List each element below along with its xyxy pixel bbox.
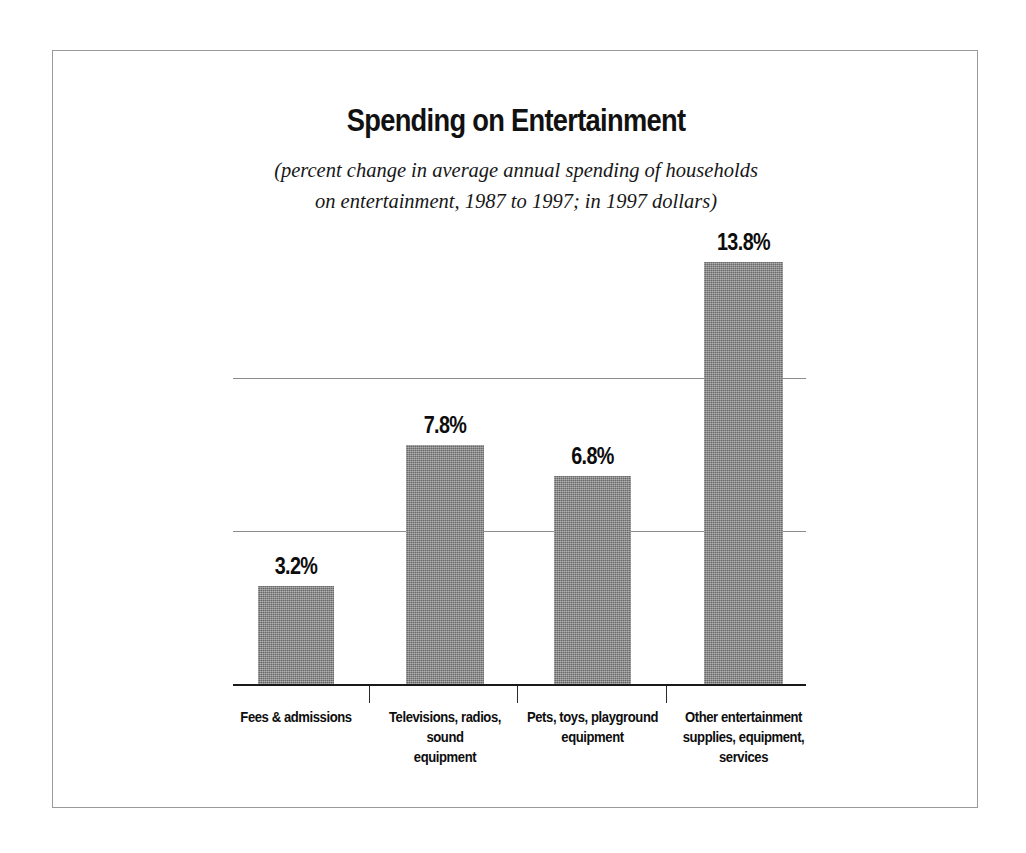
category-tick-3 [666,686,667,703]
category-tick-2 [517,686,518,703]
category-label-2: Televisions, radios, soundequipment [372,707,518,767]
bar-4[interactable] [704,262,783,684]
bar-3[interactable] [554,476,631,684]
bar-2[interactable] [406,445,484,684]
category-label-3-line-1: Pets, toys, playground [520,707,665,727]
category-label-2-line-1: Televisions, radios, sound [372,707,518,747]
bar-value-label-4: 13.8% [684,229,804,256]
category-label-2-line-2: equipment [372,747,518,767]
category-label-1: Fees & admissions [224,707,368,727]
bar-value-label-2: 7.8% [386,412,505,439]
category-label-4-line-3: services [670,747,817,767]
chart-frame: Spending on Entertainment (percent chang… [52,50,978,808]
bar-value-label-1: 3.2% [238,553,355,580]
category-label-4-line-1: Other entertainment [670,707,817,727]
x-axis-line [233,684,806,686]
category-tick-1 [369,686,370,703]
bar-1[interactable] [258,586,334,684]
plot-area: 3.2%7.8%6.8%13.8%Fees & admissionsTelevi… [53,51,979,809]
chart-page: Spending on Entertainment (percent chang… [0,0,1026,853]
bar-value-label-3: 6.8% [534,443,652,470]
category-label-3-line-2: equipment [520,727,665,747]
category-label-4: Other entertainmentsupplies, equipment,s… [670,707,817,767]
category-label-3: Pets, toys, playgroundequipment [520,707,665,747]
category-label-1-line-1: Fees & admissions [224,707,368,727]
category-label-4-line-2: supplies, equipment, [670,727,817,747]
